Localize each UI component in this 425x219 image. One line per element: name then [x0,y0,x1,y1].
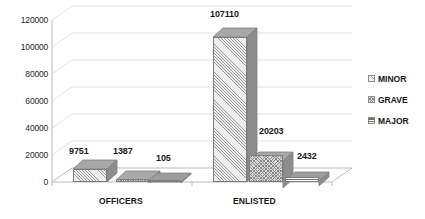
bar-officers-minor [73,155,107,182]
bar-officers-major [147,163,181,182]
category-label-enlisted: ENLISTED [233,196,276,206]
legend-item-grave[interactable]: GRAVE [368,89,425,110]
y-tick-120000: 120000 [0,15,48,25]
chart-legend: MINOR GRAVE MAJOR [368,68,425,131]
y-tick-80000: 80000 [0,69,48,79]
y-tick-20000: 20000 [0,150,48,160]
data-label-enlisted-minor: 107110 [210,9,239,19]
bar-officers-grave [116,160,150,182]
bar-face-enlisted-minor [213,37,247,182]
legend-swatch-grave-icon [368,96,375,103]
legend-label-minor: MINOR [378,74,406,84]
bar-enlisted-minor [213,22,247,182]
legend-label-grave: GRAVE [378,95,408,105]
legend-item-major[interactable]: MAJOR [368,110,425,131]
legend-label-major: MAJOR [378,116,409,126]
data-label-officers-major: 105 [156,153,171,163]
bar-face-enlisted-grave [249,155,283,182]
y-tick-0: 0 [0,177,48,187]
y-axis-labels: 120000 100000 80000 60000 40000 20000 0 [0,0,48,219]
bar-enlisted-major [285,160,319,182]
y-tick-40000: 40000 [0,123,48,133]
y-tick-60000: 60000 [0,96,48,106]
bar-face-officers-grave [116,179,150,182]
legend-swatch-minor-icon [368,75,375,82]
legend-swatch-major-icon [368,117,375,124]
legend-item-minor[interactable]: MINOR [368,68,425,89]
y-tick-100000: 100000 [0,42,48,52]
data-label-enlisted-grave: 20203 [259,126,284,136]
data-label-officers-grave: 1387 [113,146,133,156]
category-label-officers: OFFICERS [99,196,143,206]
data-label-enlisted-major: 2432 [297,151,317,161]
data-label-officers-minor: 9751 [69,146,89,156]
bar-enlisted-grave [249,140,283,182]
bar-face-officers-major [147,180,181,182]
bar-face-enlisted-major [285,177,319,182]
bar-chart: 120000 100000 80000 60000 40000 20000 0 [0,0,425,219]
bar-face-officers-minor [73,169,107,182]
